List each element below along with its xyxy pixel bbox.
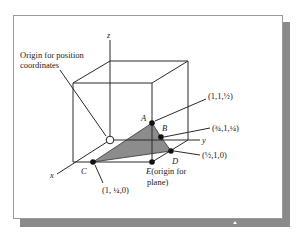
point-E-desc-line1: (origin for <box>151 166 186 176</box>
point-A-label: A <box>140 113 147 123</box>
coord-C: (1, ¼,0) <box>102 185 129 195</box>
cube-edge <box>73 61 110 83</box>
coord-B: (¾,1,¼) <box>212 123 239 133</box>
origin-leader <box>60 70 106 136</box>
cube-edge <box>152 61 188 83</box>
shadow-mark <box>233 221 237 224</box>
point-C-label: C <box>81 166 87 176</box>
point-E <box>149 159 155 165</box>
coord-D: (½,1,0) <box>202 150 227 160</box>
coord-A: (1,1,½) <box>208 91 233 101</box>
point-C <box>90 159 96 165</box>
leader-D <box>174 151 200 155</box>
point-B <box>158 134 164 140</box>
origin-marker <box>106 136 114 144</box>
point-E-desc-line2: plane) <box>147 177 168 187</box>
x-axis-label: x <box>49 170 54 180</box>
origin-label-line1: Origin for position <box>20 50 84 60</box>
leader-C <box>95 165 103 183</box>
shaded-plane <box>93 123 171 162</box>
y-axis-label: y <box>201 135 206 145</box>
leader-A <box>155 99 206 121</box>
origin-label-line2: coordinates <box>20 60 59 70</box>
point-D <box>168 148 174 154</box>
point-A <box>149 120 155 126</box>
z-axis-label: z <box>106 31 111 40</box>
point-B-label: B <box>162 123 167 133</box>
crystal-plane-diagram: Origin for position coordinates z y x A … <box>0 0 305 235</box>
point-D-label: D <box>171 156 179 166</box>
point-E-label: E(origin for <box>145 166 187 176</box>
